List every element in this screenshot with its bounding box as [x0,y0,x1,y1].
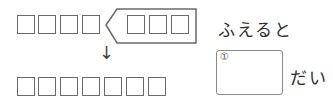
bottom-box [104,77,122,96]
bottom-box [126,77,144,96]
flag-box [171,15,189,34]
flag-box [127,15,145,34]
answer-box[interactable]: ① [216,50,283,95]
bottom-box [17,77,35,96]
answer-number: ① [220,51,229,62]
down-arrow-icon: ↓ [99,44,114,62]
flag-box [149,15,167,34]
unit-text: だい [290,64,328,89]
bottom-box [148,77,166,96]
bottom-box [82,77,100,96]
bottom-box [38,77,56,96]
bottom-box [60,77,78,96]
increase-text: ふえると [218,16,293,41]
